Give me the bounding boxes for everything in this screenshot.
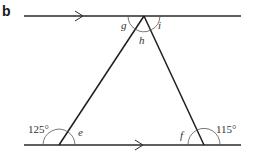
angle-i-label: i [158,19,161,31]
angle-e-label: e [78,126,83,138]
geometry-figure: b g i h 125° e f 115° [0,0,256,161]
angle-h-arc [135,29,151,32]
angle-g-label: g [121,19,127,31]
angle-g-arc [128,16,135,29]
angle-115-label: 115° [216,123,237,135]
angle-h-label: h [139,34,145,46]
part-label: b [2,3,11,19]
angle-e-arc [68,132,75,145]
angle-f-arc [188,130,197,145]
left-transversal [59,16,144,145]
right-transversal [144,16,204,145]
angle-f-label: f [180,129,183,141]
angle-125-label: 125° [28,123,49,135]
diagram-canvas [0,0,256,161]
